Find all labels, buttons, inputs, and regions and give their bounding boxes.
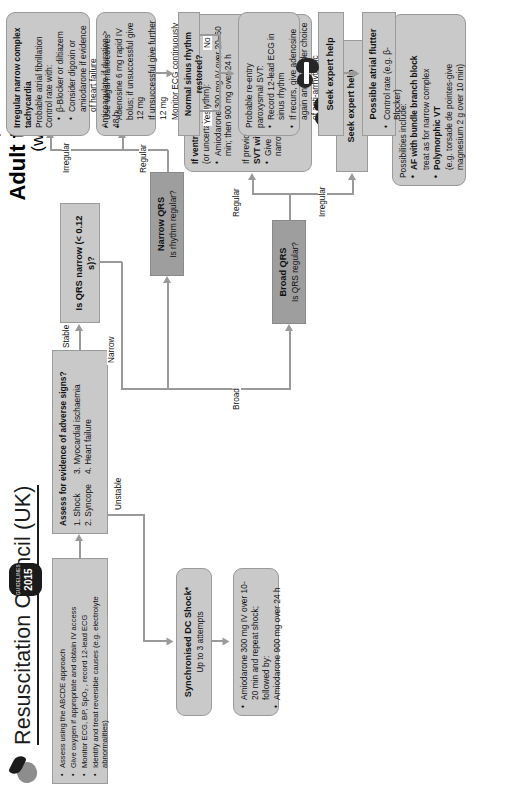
atrial-flutter-list: Control rate (e.g. β-Blocker) [382,20,404,128]
atrial-flutter-title: Possible atrial flutter [368,20,380,128]
spacer4 [0,134,1,136]
telephone-handset-icon [296,58,322,88]
seek-expert-help-label: Seek expert help [325,20,337,128]
atrial-flutter-box: Possible atrial flutterControl rate (e.g… [362,12,396,136]
arrow-icon [353,70,360,78]
list-item: Control rate (e.g. β-Blocker) [382,20,404,128]
